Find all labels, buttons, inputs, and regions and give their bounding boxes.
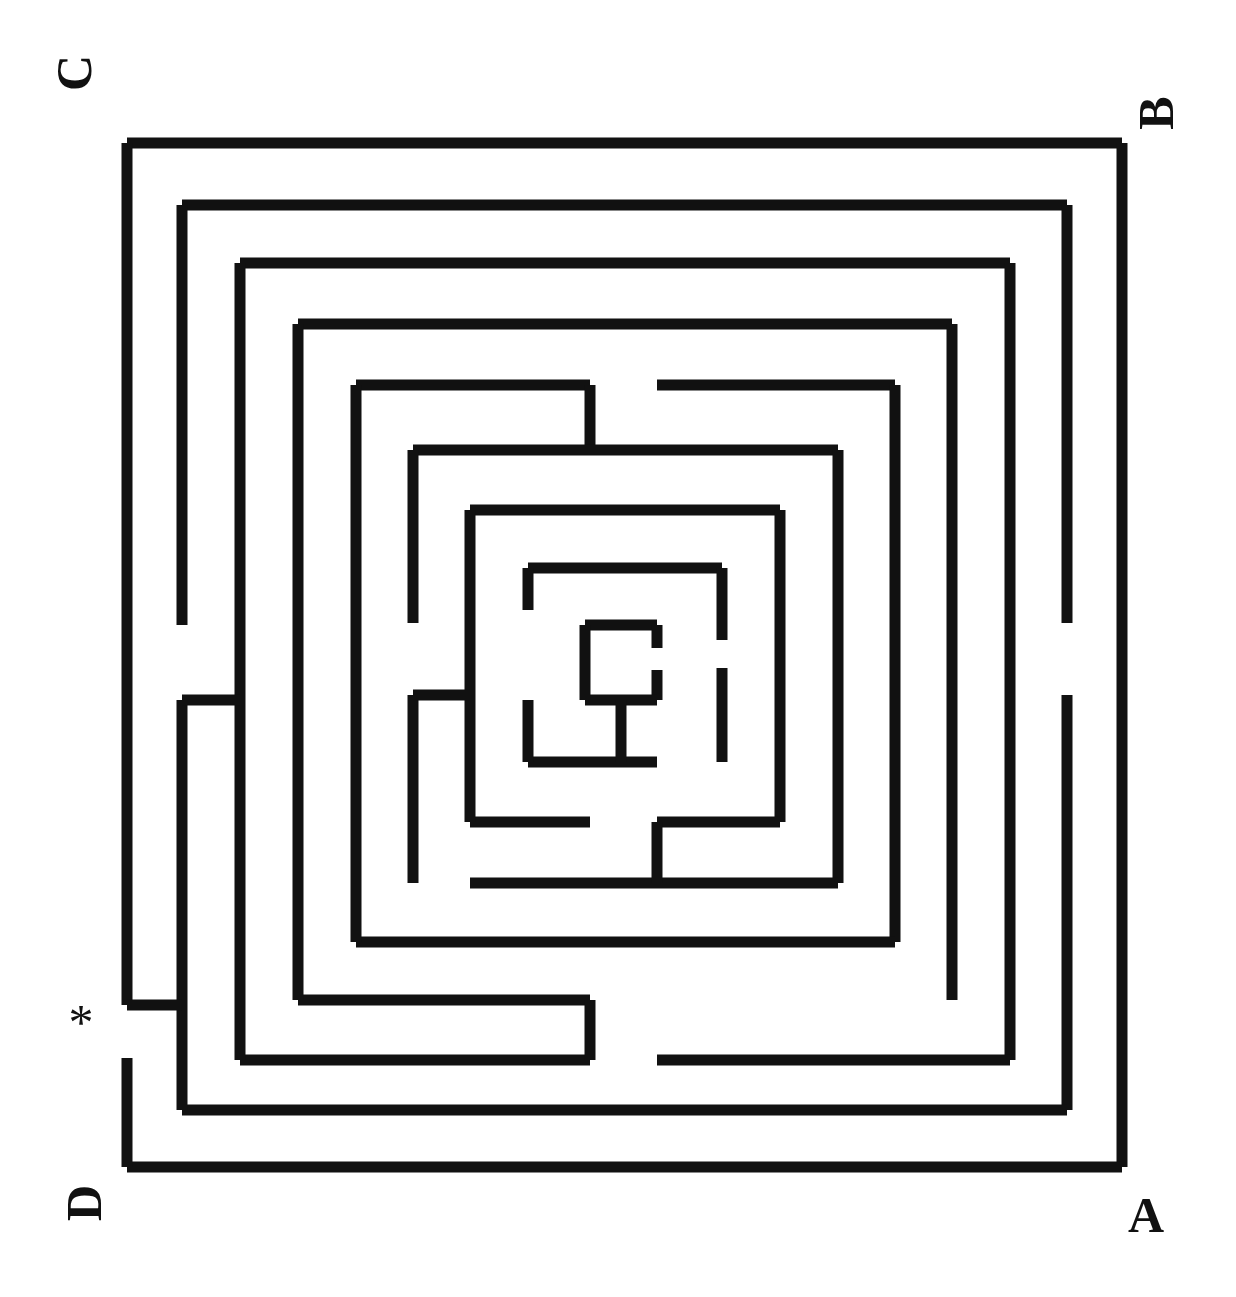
corner-label-c-text: C [49, 55, 99, 91]
maze-page: C B D A * [0, 0, 1236, 1297]
maze-diagram [0, 0, 1236, 1297]
corner-label-b-text: B [1131, 96, 1181, 129]
corner-label-c: C [46, 48, 102, 104]
corner-label-d-text: D [59, 1185, 109, 1221]
corner-label-b: B [1128, 88, 1184, 144]
maze-walls [127, 143, 1122, 1167]
corner-label-d: D [56, 1178, 112, 1234]
corner-label-a-text: A [1128, 1190, 1164, 1240]
corner-label-a: A [1118, 1190, 1174, 1246]
entrance-asterisk-marker: * [56, 997, 106, 1047]
